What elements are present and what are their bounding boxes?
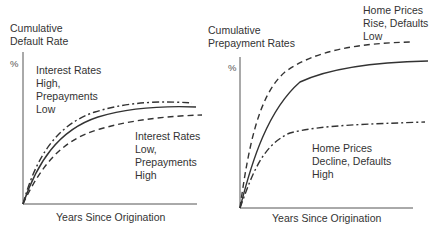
left-title: Cumulative Default Rate — [10, 22, 68, 48]
right-annotation-prices-rise: Home Prices Rise, Defaults Low — [363, 4, 428, 43]
right-y-unit: % — [228, 61, 236, 74]
left-annotation-high-rates: Interest Rates High, Prepayments Low — [36, 64, 101, 116]
left-annotation-low-rates: Interest Rates Low, Prepayments High — [135, 130, 200, 182]
right-title: Cumulative Prepayment Rates — [208, 24, 295, 50]
right-curves — [240, 42, 428, 208]
figure: Cumulative Default Rate % Interest Rates… — [0, 0, 437, 236]
right-axes — [240, 57, 413, 208]
left-y-unit: % — [10, 57, 18, 70]
right-annotation-prices-decline: Home Prices Decline, Defaults High — [312, 142, 391, 181]
left-x-label: Years Since Origination — [56, 211, 165, 224]
right-x-label: Years Since Origination — [272, 212, 381, 225]
right-solid-curve — [240, 61, 428, 208]
right-dashed-curve — [240, 42, 413, 208]
